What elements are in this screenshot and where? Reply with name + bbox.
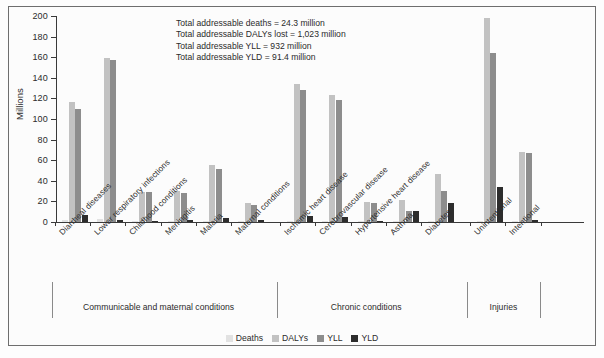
legend-item-dalys[interactable]: DALYs (272, 333, 308, 343)
bar-dalys (104, 58, 110, 222)
chart-root: Total addressable deaths = 24.3 million … (0, 0, 604, 358)
group-label: Injuries (490, 302, 518, 312)
legend-item-deaths[interactable]: Deaths (226, 333, 263, 343)
bar-yll (336, 100, 342, 222)
y-axis-tick-label: 200 (32, 11, 48, 21)
y-axis-tick-label: 20 (38, 196, 48, 206)
y-axis-tick-label: 0 (43, 217, 48, 227)
y-axis-tick-label: 100 (32, 114, 48, 124)
bar-group (428, 16, 457, 222)
x-axis-tick (90, 222, 91, 226)
y-axis-tick (51, 16, 56, 17)
group-label: Communicable and maternal conditions (83, 302, 234, 312)
bar-yll (490, 53, 496, 222)
bar-dalys (484, 18, 490, 222)
bar-dalys (519, 152, 525, 222)
x-axis-tick (421, 222, 422, 226)
bar-group (238, 16, 267, 222)
bar-yll (75, 109, 81, 222)
legend-swatch-icon (317, 335, 324, 342)
group-label: Chronic conditions (331, 302, 402, 312)
legend-swatch-icon (272, 335, 279, 342)
x-axis-tick (125, 222, 126, 226)
y-axis-tick-label: 60 (38, 155, 48, 165)
x-axis-tick (55, 222, 56, 226)
y-axis-line (56, 16, 57, 223)
bar-dalys (294, 84, 300, 222)
bar-dalys (329, 95, 335, 222)
legend-label: Deaths (236, 333, 263, 343)
x-axis-tick (541, 222, 542, 226)
legend-swatch-icon (226, 335, 233, 342)
bar-yld (532, 220, 538, 222)
y-axis-tick (51, 119, 56, 120)
legend-label: DALYs (282, 333, 308, 343)
y-axis-title: Millions (14, 88, 25, 120)
y-axis-tick (51, 140, 56, 141)
bar-yll (300, 90, 306, 222)
y-axis-tick (51, 181, 56, 182)
group-separator (277, 282, 278, 318)
group-band: Communicable and maternal conditionsChro… (56, 296, 596, 322)
y-axis-tick-label: 120 (32, 93, 48, 103)
y-axis-tick (51, 201, 56, 202)
bar-yll (110, 60, 116, 222)
legend-label: YLD (361, 333, 378, 343)
group-separator (540, 282, 541, 318)
x-axis-tick (470, 222, 471, 226)
legend-item-yld[interactable]: YLD (351, 333, 378, 343)
x-axis-tick (505, 222, 506, 226)
y-axis-tick-label: 140 (32, 73, 48, 83)
bar-group (203, 16, 232, 222)
y-axis-tick-label: 160 (32, 52, 48, 62)
y-axis-tick (51, 78, 56, 79)
group-separator (52, 282, 53, 318)
x-axis-tick (196, 222, 197, 226)
x-axis-tick (315, 222, 316, 226)
chart-legend: DeathsDALYsYLLYLD (0, 333, 604, 343)
bar-group (477, 16, 506, 222)
bar-yld (258, 220, 264, 222)
x-axis-tick (280, 222, 281, 226)
bar-yld (152, 221, 158, 222)
x-axis-tick (386, 222, 387, 226)
bar-group (512, 16, 541, 222)
y-axis-tick-label: 80 (38, 135, 48, 145)
bar-group (287, 16, 316, 222)
legend-swatch-icon (351, 335, 358, 342)
group-separator (467, 282, 468, 318)
bar-yld (377, 221, 383, 222)
x-axis-tick (161, 222, 162, 226)
legend-label: YLL (327, 333, 342, 343)
y-axis-tick-label: 180 (32, 32, 48, 42)
x-axis-tick (231, 222, 232, 226)
y-axis-tick (51, 57, 56, 58)
y-axis-tick (51, 160, 56, 161)
legend-item-yll[interactable]: YLL (317, 333, 342, 343)
bar-yld (187, 220, 193, 222)
y-axis-tick-label: 40 (38, 176, 48, 186)
y-axis-tick (51, 37, 56, 38)
bar-yld (117, 220, 123, 222)
bar-group (62, 16, 91, 222)
y-axis-tick (51, 98, 56, 99)
bar-dalys (69, 102, 75, 223)
x-axis-tick (351, 222, 352, 226)
